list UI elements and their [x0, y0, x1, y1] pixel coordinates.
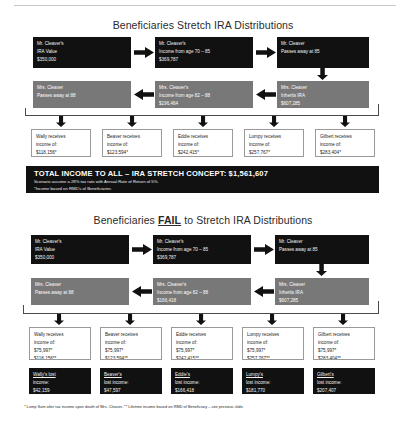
stretch-box-mr-cleaver-passes-85: Mr. Cleaver Passes away at 85	[277, 37, 369, 68]
box-line: Mrs. Cleaver	[279, 281, 365, 289]
box-line: income of:	[247, 339, 299, 347]
box-line: $181,770	[246, 387, 300, 394]
box-line: Mrs. Cleaver's	[159, 84, 249, 92]
arrow-right-icon	[256, 47, 276, 58]
fail-box-mr-cleaver-passes-85: Mr. Cleaver Passes away at 85	[275, 235, 369, 264]
arrow-right-icon	[254, 244, 274, 255]
box-line: Mrs. Cleaver	[281, 84, 365, 92]
box-line: Lumpy's	[246, 371, 300, 379]
box-line: IRA Value	[37, 48, 127, 56]
page-title-stretch-emphasis: Stretch	[177, 19, 211, 31]
box-line: income:	[33, 379, 87, 387]
box-line: Mrs. Cleaver	[35, 281, 125, 289]
box-line: Mr. Cleaver's	[159, 40, 249, 48]
box-line: Eddie's	[175, 371, 229, 379]
box-line: Mr. Cleaver's	[35, 238, 125, 246]
box-line: Mr. Cleaver	[279, 238, 365, 246]
arrow-down-icon	[269, 116, 279, 127]
lost-income-gilbert: Gilbert's lost income: $207,407	[313, 368, 375, 394]
box-line: income of:	[318, 339, 370, 347]
arrow-down-icon	[340, 116, 350, 127]
fail-box-mrs-cleaver-passes-88: Mrs. Cleaver Passes away at 88	[31, 278, 129, 305]
box-line: Mr. Cleaver	[281, 40, 365, 48]
box-line: $123,594*	[107, 149, 157, 157]
lost-income-beaver: Beaver's lost income: $47,597	[100, 368, 162, 394]
box-line: Wally receives	[36, 133, 86, 141]
lost-income-wally: Wally's lost income: $42,159	[29, 368, 91, 394]
box-line: $123,594**	[105, 355, 157, 360]
fail-beneficiary-gilbert: Gilbert receives income of: $75,997* $28…	[313, 327, 375, 360]
fail-box-mrs-cleaver-inherits-ira: Mrs. Cleaver Inherits IRA $607,285	[275, 278, 369, 305]
box-line: Mrs. Cleaver's	[157, 281, 247, 289]
total-income-banner: TOTAL INCOME TO ALL – IRA STRETCH CONCEP…	[26, 166, 379, 193]
fail-box-mr-cleaver-income-70-85: Mr. Cleaver's Income from age 70 – 85 $3…	[153, 235, 251, 264]
box-line: lost income:	[317, 379, 371, 387]
box-line: $369,787	[159, 56, 249, 64]
box-line: Passes away at 88	[37, 92, 127, 100]
arrow-left-icon	[254, 286, 274, 297]
stretch-box-mrs-cleaver-income-82-88: Mrs. Cleaver's Income from age 82 – 88 $…	[155, 81, 253, 108]
page-title-stretch-suffix: IRA Distributions	[211, 19, 293, 31]
bracket-right-stem	[378, 104, 379, 116]
arrow-down-icon	[127, 116, 137, 127]
box-line: $283,404**	[318, 355, 370, 360]
box-line: Income from age 70 – 85	[159, 48, 249, 56]
box-line: Income from age 82 – 88	[157, 289, 247, 297]
box-line: Mr. Cleaver's	[37, 40, 127, 48]
arrow-down-icon	[316, 264, 327, 276]
box-line: income of:	[36, 141, 86, 149]
arrow-left-icon	[256, 89, 276, 100]
fail-box-mrs-cleaver-income-82-88: Mrs. Cleaver's Income from age 82 – 88 $…	[153, 278, 251, 305]
fail-beneficiary-beaver: Beaver receives income of: $75,997* $123…	[100, 327, 162, 360]
stretch-beneficiary-lumpy: Lumpy receives income of: $257,767*	[244, 129, 304, 157]
total-income-banner-sub-1: Scenario assume a 28% tax rate with Annu…	[34, 178, 371, 185]
arrow-down-icon	[56, 116, 66, 127]
box-line: $75,997*	[176, 347, 228, 355]
lost-income-eddie: Eddie's lost income: $166,418	[171, 368, 233, 394]
arrow-down-icon	[267, 314, 277, 325]
box-line: $166,418	[175, 387, 229, 394]
box-line: $75,997*	[318, 347, 370, 355]
page-title-fail-suffix: to Stretch IRA Distributions	[181, 214, 312, 226]
box-line: $75,997*	[105, 347, 157, 355]
box-line: $607,285	[279, 297, 365, 305]
page-title-stretch-prefix: Beneficiaries	[113, 19, 177, 31]
box-line: $607,285	[281, 100, 365, 108]
arrow-right-icon	[132, 244, 152, 255]
total-income-banner-title: TOTAL INCOME TO ALL – IRA STRETCH CONCEP…	[34, 169, 371, 178]
box-line: Lumpy receives	[247, 331, 299, 339]
lost-income-lumpy: Lumpy's lost income: $181,770	[242, 368, 304, 394]
box-line: Beaver's	[104, 371, 158, 379]
page-title-fail-prefix: Beneficiaries	[94, 214, 158, 226]
box-line: income of:	[178, 141, 228, 149]
box-line: $257,767*	[249, 149, 299, 157]
page-title-fail-emphasis: FAIL	[158, 214, 181, 226]
box-line: $350,000	[35, 254, 125, 262]
arrow-right-icon	[134, 47, 154, 58]
fail-beneficiary-lumpy: Lumpy receives income of: $75,997* $257,…	[242, 327, 304, 360]
slide-canvas: Beneficiaries Stretch IRA Distributions …	[0, 0, 406, 434]
box-line: Inherits IRA	[279, 289, 365, 297]
box-line: Lumpy receives	[249, 133, 299, 141]
stretch-beneficiary-wally: Wally receives income of: $118,156*	[31, 129, 91, 157]
box-line: Gilbert's	[317, 371, 371, 379]
box-line: $242,415*	[178, 149, 228, 157]
box-line: Inherits IRA	[281, 92, 365, 100]
box-line: $283,404*	[320, 149, 370, 157]
box-line: $75,997*	[34, 347, 86, 355]
stretch-beneficiary-eddie: Eddie receives income of: $242,415*	[173, 129, 233, 157]
stretch-box-mr-cleaver-ira-value: Mr. Cleaver's IRA Value $350,000	[33, 37, 131, 68]
arrow-left-icon	[132, 286, 152, 297]
box-line: $47,597	[104, 387, 158, 394]
box-line: $207,407	[317, 387, 371, 394]
box-line: Mrs. Cleaver	[37, 84, 127, 92]
page-title-fail: Beneficiaries FAIL to Stretch IRA Distri…	[0, 214, 406, 226]
box-line: $75,997*	[247, 347, 299, 355]
box-line: Passes away at 85	[279, 246, 365, 254]
arrow-down-icon	[338, 314, 348, 325]
stretch-box-mrs-cleaver-inherits-ira: Mrs. Cleaver Inherits IRA $607,285	[277, 81, 369, 108]
stretch-beneficiary-gilbert: Gilbert receives income of: $283,404*	[315, 129, 375, 157]
stretch-box-mrs-cleaver-passes-88: Mrs. Cleaver Passes away at 88	[33, 81, 131, 108]
box-line: Beaver receives	[105, 331, 157, 339]
box-line: $196,464	[159, 100, 249, 108]
